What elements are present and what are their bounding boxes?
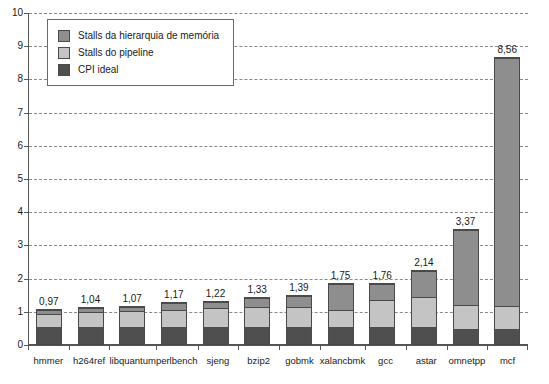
bar-value-label: 1,75 <box>331 271 350 281</box>
legend-item[interactable]: Stalls da hierarquia de memória <box>58 27 219 44</box>
legend-swatch-icon <box>58 47 70 59</box>
stacked-bar[interactable]: 2,14 <box>411 270 437 345</box>
x-axis-tick-label: sjeng <box>198 355 239 366</box>
x-axis-tick-bzip2: bzip2 <box>238 345 279 366</box>
y-axis-tick-label: 0 <box>17 340 23 350</box>
x-axis-tick-label: astar <box>406 355 447 366</box>
bar-value-label: 1,33 <box>247 285 266 295</box>
x-axis: hmmerh264reflibquantumperlbenchsjengbzip… <box>28 345 528 366</box>
x-axis-tick-label: libquantum <box>109 355 155 366</box>
bar-segment-ideal <box>495 329 519 344</box>
bar-group-gcc[interactable]: 1,76 <box>361 13 403 345</box>
bar-segment-memory <box>245 298 269 307</box>
bar-value-label: 0,97 <box>39 297 58 307</box>
stacked-bar[interactable]: 1,04 <box>78 307 104 346</box>
bar-value-label: 1,07 <box>122 294 141 304</box>
bar-segment-ideal <box>245 327 269 344</box>
bar-segment-pipeline <box>245 307 269 328</box>
legend-item[interactable]: Stalls do pipeline <box>58 44 219 61</box>
bar-segment-ideal <box>204 327 228 344</box>
stacked-bar-chart: 012345678910 0,971,041,071,171,221,331,3… <box>0 0 549 384</box>
y-axis-tick-label: 10 <box>12 8 23 18</box>
x-axis-tick-mark <box>69 345 70 350</box>
x-axis-tick-label: omnetpp <box>447 355 488 366</box>
x-axis-tick-label: xalancbmk <box>320 355 365 366</box>
bar-segment-memory <box>162 303 186 310</box>
bar-segment-ideal <box>454 329 478 344</box>
y-axis-tick-label: 6 <box>17 141 23 151</box>
bar-group-omnetpp[interactable]: 3,37 <box>445 13 487 345</box>
legend-item-label: CPI ideal <box>78 64 119 75</box>
bar-segment-ideal <box>162 327 186 344</box>
x-axis-tick-mcf: mcf <box>487 345 528 366</box>
y-axis-tick-label: 5 <box>17 174 23 184</box>
x-axis-tick-perlbench: perlbench <box>156 345 198 366</box>
bar-value-label: 1,17 <box>164 290 183 300</box>
x-axis-tick-omnetpp: omnetpp <box>447 345 488 366</box>
x-axis-end-tick-mark <box>527 345 528 350</box>
x-axis-tick-sjeng: sjeng <box>198 345 239 366</box>
x-axis-tick-mark <box>109 345 110 350</box>
y-axis-tick-label: 7 <box>17 108 23 118</box>
stacked-bar[interactable]: 1,75 <box>328 283 354 345</box>
stacked-bar[interactable]: 3,37 <box>453 229 479 345</box>
bar-value-label: 1,76 <box>372 271 391 281</box>
x-axis-tick-label: gobmk <box>279 355 320 366</box>
legend-swatch-icon <box>58 30 70 42</box>
bar-segment-pipeline <box>495 306 519 329</box>
chart-legend: Stalls da hierarquia de memóriaStalls do… <box>47 19 234 86</box>
x-axis-tick-label: bzip2 <box>238 355 279 366</box>
bar-segment-memory <box>495 58 519 307</box>
stacked-bar[interactable]: 1,07 <box>119 306 145 346</box>
bar-segment-memory <box>412 271 436 297</box>
x-axis-tick-mark <box>487 345 488 350</box>
bar-segment-pipeline <box>329 310 353 328</box>
legend-item-label: Stalls da hierarquia de memória <box>78 30 219 41</box>
x-axis-tick-gcc: gcc <box>365 345 406 366</box>
x-axis-tick-libquantum: libquantum <box>109 345 155 366</box>
stacked-bar[interactable]: 1,22 <box>203 301 229 345</box>
bar-segment-pipeline <box>120 311 144 327</box>
bar-segment-ideal <box>329 327 353 344</box>
x-axis-tick-hmmer: hmmer <box>28 345 69 366</box>
bar-segment-ideal <box>79 327 103 344</box>
x-axis-tick-mark <box>28 345 29 350</box>
bar-segment-memory <box>454 230 478 305</box>
x-axis-tick-label: h264ref <box>69 355 110 366</box>
stacked-bar[interactable]: 1,39 <box>286 295 312 345</box>
bar-segment-pipeline <box>287 307 311 328</box>
bar-group-mcf[interactable]: 8,56 <box>486 13 528 345</box>
bar-segment-pipeline <box>370 300 394 328</box>
legend-item-label: Stalls do pipeline <box>78 47 154 58</box>
bar-segment-pipeline <box>79 312 103 327</box>
stacked-bar[interactable]: 0,97 <box>36 309 62 345</box>
bar-segment-memory <box>287 296 311 307</box>
bar-segment-ideal <box>370 327 394 344</box>
bar-group-gobmk[interactable]: 1,39 <box>278 13 320 345</box>
x-axis-tick-mark <box>238 345 239 350</box>
x-axis-tick-label: perlbench <box>156 355 198 366</box>
bar-segment-memory <box>329 284 353 310</box>
legend-item[interactable]: CPI ideal <box>58 61 219 78</box>
x-axis-tick-h264ref: h264ref <box>69 345 110 366</box>
stacked-bar[interactable]: 8,56 <box>494 57 520 345</box>
x-axis-tick-astar: astar <box>406 345 447 366</box>
bar-value-label: 3,37 <box>456 217 475 227</box>
x-axis-tick-xalancbmk: xalancbmk <box>320 345 365 366</box>
stacked-bar[interactable]: 1,17 <box>161 302 187 345</box>
x-axis-tick-mark <box>406 345 407 350</box>
bar-value-label: 1,04 <box>81 295 100 305</box>
x-axis-tick-mark <box>320 345 321 350</box>
bar-group-astar[interactable]: 2,14 <box>403 13 445 345</box>
bar-group-bzip2[interactable]: 1,33 <box>236 13 278 345</box>
bar-group-xalancbmk[interactable]: 1,75 <box>320 13 362 345</box>
bar-segment-ideal <box>120 327 144 344</box>
stacked-bar[interactable]: 1,76 <box>369 283 395 345</box>
x-axis-tick-mark <box>365 345 366 350</box>
y-axis-tick-label: 2 <box>17 274 23 284</box>
bar-segment-pipeline <box>454 305 478 329</box>
legend-swatch-icon <box>58 64 70 76</box>
stacked-bar[interactable]: 1,33 <box>244 297 270 345</box>
bar-segment-ideal <box>287 327 311 344</box>
bar-segment-pipeline <box>412 297 436 328</box>
